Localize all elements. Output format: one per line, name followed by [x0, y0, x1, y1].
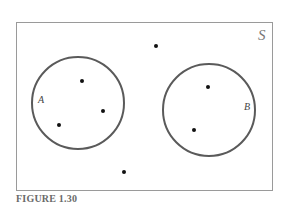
venn-diagram: S A B [0, 0, 290, 209]
universe-label: S [258, 27, 266, 43]
set-b-circle [163, 64, 255, 156]
point [154, 44, 158, 48]
figure-caption: FIGURE 1.30 [16, 193, 77, 204]
set-b-label: B [244, 101, 250, 112]
point [57, 123, 61, 127]
point [206, 85, 210, 89]
set-a-label: A [37, 94, 45, 105]
universe-rectangle [17, 23, 273, 191]
point [80, 79, 84, 83]
point [122, 170, 126, 174]
point [192, 128, 196, 132]
set-a-circle [32, 57, 124, 149]
point [101, 109, 105, 113]
